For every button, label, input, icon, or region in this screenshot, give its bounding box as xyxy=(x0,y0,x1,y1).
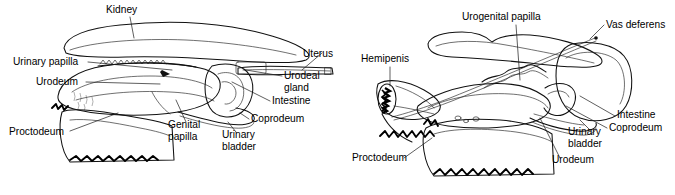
female-cloaca-diagram: Kidney Urinary papilla Urodeum Proctodeu… xyxy=(9,4,333,162)
label-uterus: Uterus xyxy=(303,48,333,59)
male-cloaca-diagram: Urogenital papilla Vas deferens Hemipeni… xyxy=(352,11,665,176)
kidney-organ xyxy=(64,23,309,63)
label-intestine: Intestine xyxy=(272,95,311,106)
label-coprodeum: Coprodeum xyxy=(609,122,662,133)
anatomy-figure: Kidney Urinary papilla Urodeum Proctodeu… xyxy=(0,0,675,195)
genital-papilla-structure xyxy=(152,92,170,114)
label-vas-deferens: Vas deferens xyxy=(606,19,665,30)
label-urinary-bladder-line1: Urinary xyxy=(222,129,256,140)
label-urinary-papilla: Urinary papilla xyxy=(13,56,78,67)
label-proctodeum: Proctodeum xyxy=(352,152,407,163)
cloaca-chamber xyxy=(58,63,220,115)
female-labels: Kidney Urinary papilla Urodeum Proctodeu… xyxy=(9,4,333,152)
dorsal-cloacal-wall xyxy=(98,60,196,67)
label-urodeal-gland-line2: gland xyxy=(284,82,309,93)
label-urodeal-gland-line1: Urodeal xyxy=(284,70,320,81)
label-proctodeum: Proctodeum xyxy=(9,126,64,137)
vas-deferens-duct xyxy=(392,36,598,120)
label-urinary-bladder-line2: bladder xyxy=(568,138,603,149)
label-urogenital-papilla: Urogenital papilla xyxy=(462,11,541,22)
cloacal-folds xyxy=(74,92,93,111)
cloaca-chamber xyxy=(417,84,550,129)
proctodeum-flap xyxy=(52,104,174,162)
label-genital-papilla-line1: Genital xyxy=(168,119,200,130)
label-kidney: Kidney xyxy=(106,4,138,15)
hemipenis-organ xyxy=(377,81,441,120)
hemipenis-spines xyxy=(382,88,390,113)
label-urinary-bladder-line1: Urinary xyxy=(568,126,602,137)
label-hemipenis: Hemipenis xyxy=(361,53,409,64)
label-intestine: Intestine xyxy=(617,109,656,120)
label-urinary-bladder-line2: bladder xyxy=(222,141,257,152)
label-urodeum: Urodeum xyxy=(552,154,594,165)
label-genital-papilla-line2: papilla xyxy=(168,131,198,142)
male-labels: Urogenital papilla Vas deferens Hemipeni… xyxy=(352,11,665,165)
label-coprodeum: Coprodeum xyxy=(251,113,304,124)
label-urodeum: Urodeum xyxy=(36,76,78,87)
figure-canvas: Kidney Urinary papilla Urodeum Proctodeu… xyxy=(0,0,675,195)
